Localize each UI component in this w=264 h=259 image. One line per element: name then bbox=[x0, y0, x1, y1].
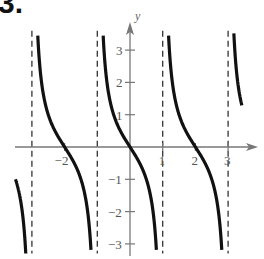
x-tick-label: −2 bbox=[55, 153, 69, 168]
tangent-graph: y−2123−3−2−1123 bbox=[0, 0, 264, 259]
x-tick-label: 2 bbox=[191, 153, 198, 168]
function-curves bbox=[16, 33, 242, 253]
y-tick-label: −3 bbox=[108, 237, 122, 252]
x-tick-label: 3 bbox=[224, 153, 231, 168]
curve-branch bbox=[38, 36, 91, 250]
y-axis-label: y bbox=[134, 9, 141, 23]
curve-branch bbox=[16, 179, 26, 253]
curve-branch bbox=[234, 33, 242, 105]
axes bbox=[15, 22, 258, 256]
y-tick-label: −1 bbox=[108, 172, 122, 187]
tick-labels: y−2123−3−2−1123 bbox=[55, 9, 231, 252]
y-tick-label: −2 bbox=[108, 205, 122, 220]
y-tick-label: 2 bbox=[116, 75, 123, 90]
y-tick-label: 3 bbox=[116, 43, 123, 58]
curve-branch bbox=[169, 36, 222, 250]
y-tick-label: 1 bbox=[116, 108, 123, 123]
x-tick-label: 1 bbox=[159, 153, 166, 168]
